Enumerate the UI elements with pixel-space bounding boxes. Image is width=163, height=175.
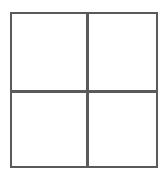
grid-cell-top-left: [12, 14, 86, 90]
grid-frame: [10, 12, 158, 168]
horizontal-divider: [12, 90, 156, 93]
grid-cell-bottom-left: [12, 93, 86, 165]
grid-cell-bottom-right: [88, 93, 155, 165]
grid-cell-top-right: [88, 14, 155, 90]
